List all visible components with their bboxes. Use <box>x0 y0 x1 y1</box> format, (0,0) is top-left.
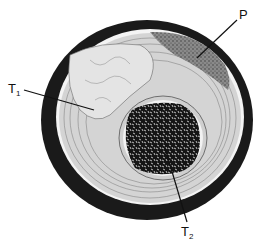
label-T1: T1 <box>8 82 20 98</box>
label-P: P <box>239 8 248 21</box>
label-T2: T2 <box>181 225 193 241</box>
cross-section-diagram <box>0 0 258 246</box>
T2-region <box>126 103 200 174</box>
